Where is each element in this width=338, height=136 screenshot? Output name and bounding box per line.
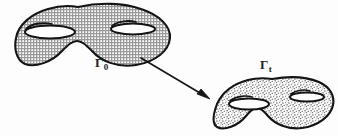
genus-2-surface-source [15,4,170,66]
arrow-head [197,89,210,99]
figure-container: Γ0 Γt [0,0,338,136]
genus-2-surface-target [214,77,334,128]
gamma-subscript-target: t [268,64,272,74]
gamma-subscript-source: 0 [103,62,108,72]
label-gamma-t: Γt [260,56,272,74]
arrow-shaft [141,58,205,96]
label-gamma-zero: Γ0 [95,54,108,72]
surface-deformation-diagram [0,0,338,136]
deformation-arrow [141,58,210,99]
